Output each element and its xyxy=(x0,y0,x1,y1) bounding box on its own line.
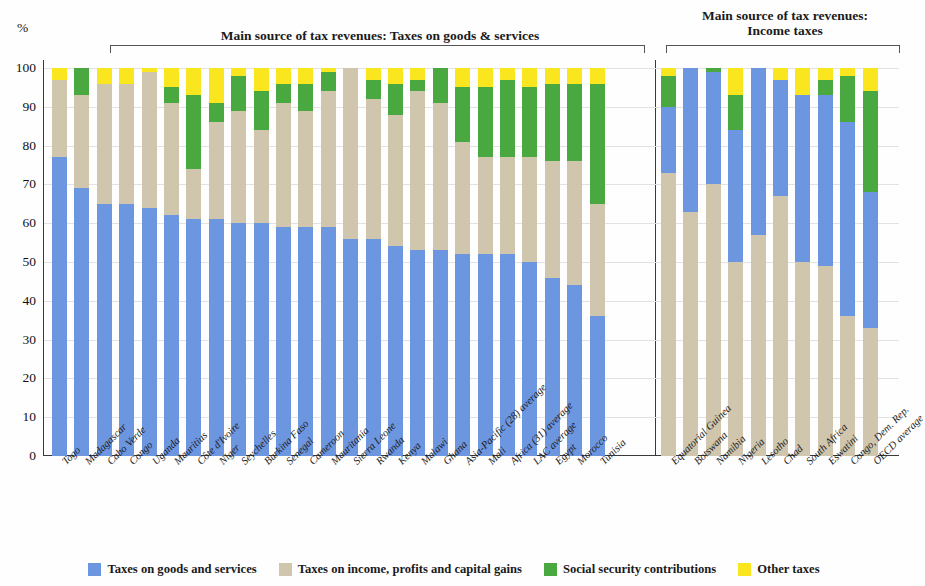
segment-income xyxy=(343,68,358,239)
legend-item[interactable]: Taxes on goods and services xyxy=(88,562,256,577)
bar-nigeria[interactable] xyxy=(728,68,743,456)
segment-social xyxy=(254,91,269,130)
segment-social xyxy=(840,76,855,123)
bar-mauritius[interactable] xyxy=(164,68,179,456)
bar-cameroon[interactable] xyxy=(298,68,313,456)
segment-other xyxy=(773,68,788,80)
segment-other xyxy=(661,68,676,76)
y-axis-tick-label: 10 xyxy=(2,409,36,425)
bar-seychelles[interactable] xyxy=(231,68,246,456)
segment-other xyxy=(455,68,470,87)
bar-cabo-verde[interactable] xyxy=(97,68,112,456)
bar-senegal[interactable] xyxy=(276,68,291,456)
bar-namibia[interactable] xyxy=(706,68,721,456)
segment-social xyxy=(276,84,291,103)
segment-income xyxy=(209,122,224,219)
segment-other xyxy=(795,68,810,95)
bar-eswatini[interactable] xyxy=(818,68,833,456)
bar-sierra-leone[interactable] xyxy=(343,68,358,456)
segment-income xyxy=(751,235,766,456)
segment-other xyxy=(186,68,201,95)
bar-lesotho[interactable] xyxy=(751,68,766,456)
y-axis-tick-label: 60 xyxy=(2,215,36,231)
segment-income xyxy=(410,91,425,250)
bar-south-africa[interactable] xyxy=(795,68,810,456)
bar-egypt[interactable] xyxy=(545,68,560,456)
segment-goods xyxy=(751,68,766,235)
segment-income xyxy=(74,95,89,188)
segment-income xyxy=(545,161,560,277)
segment-other xyxy=(276,68,291,84)
bar-niger[interactable] xyxy=(209,68,224,456)
bar-africa-31-average[interactable] xyxy=(500,68,515,456)
segment-goods xyxy=(661,107,676,173)
segment-social xyxy=(366,80,381,99)
bar-chad[interactable] xyxy=(773,68,788,456)
legend-item[interactable]: Social security contributions xyxy=(544,562,716,577)
bar-botswana[interactable] xyxy=(683,68,698,456)
segment-social xyxy=(545,84,560,162)
segment-income xyxy=(683,212,698,456)
segment-goods xyxy=(683,68,698,212)
bar-mauritania[interactable] xyxy=(321,68,336,456)
bar-morocco[interactable] xyxy=(567,68,582,456)
segment-income xyxy=(433,103,448,250)
y-axis-tick-label: 0 xyxy=(2,448,36,464)
segment-goods xyxy=(433,250,448,456)
segment-income xyxy=(728,262,743,456)
segment-income xyxy=(455,142,470,255)
bar-oecd-average[interactable] xyxy=(863,68,878,456)
bar-congo[interactable] xyxy=(119,68,134,456)
legend-item[interactable]: Taxes on income, profits and capital gai… xyxy=(279,562,522,577)
segment-goods xyxy=(142,208,157,456)
segment-other xyxy=(119,68,134,84)
bar-madagascar[interactable] xyxy=(74,68,89,456)
segment-social xyxy=(478,87,493,157)
segment-income xyxy=(773,196,788,456)
bar-asia-pacific-28-average[interactable] xyxy=(455,68,470,456)
bar-congo-dem-rep[interactable] xyxy=(840,68,855,456)
y-axis-unit-label: % xyxy=(17,20,28,36)
segment-goods xyxy=(455,254,470,456)
segment-other xyxy=(209,68,224,103)
legend-swatch-icon xyxy=(279,563,292,576)
bar-equatorial-guinea[interactable] xyxy=(661,68,676,456)
group-header-income-line1: Main source of tax revenues: xyxy=(660,8,910,23)
segment-income xyxy=(276,103,291,227)
segment-income xyxy=(567,161,582,285)
y-axis-tick-label: 90 xyxy=(2,99,36,115)
legend-item[interactable]: Other taxes xyxy=(738,562,819,577)
segment-goods xyxy=(186,219,201,456)
bar-burkina-faso[interactable] xyxy=(254,68,269,456)
group-header-goods: Main source of tax revenues: Taxes on go… xyxy=(100,28,660,43)
segment-income xyxy=(478,157,493,254)
segment-social xyxy=(74,68,89,95)
bar-rwanda[interactable] xyxy=(366,68,381,456)
bar-mali[interactable] xyxy=(478,68,493,456)
chart-legend: Taxes on goods and servicesTaxes on inco… xyxy=(0,556,908,582)
bar-togo[interactable] xyxy=(52,68,67,456)
segment-other xyxy=(500,68,515,80)
segment-other xyxy=(840,68,855,76)
segment-income xyxy=(500,157,515,254)
bar-malawi[interactable] xyxy=(410,68,425,456)
segment-social xyxy=(321,72,336,91)
segment-social xyxy=(522,87,537,157)
segment-other xyxy=(728,68,743,95)
segment-other xyxy=(522,68,537,87)
segment-goods xyxy=(276,227,291,456)
segment-goods xyxy=(773,80,788,196)
segment-goods xyxy=(52,157,67,456)
bar-kenya[interactable] xyxy=(388,68,403,456)
bar-c-te-d-ivoire[interactable] xyxy=(186,68,201,456)
bar-tunisia[interactable] xyxy=(590,68,605,456)
bar-uganda[interactable] xyxy=(142,68,157,456)
segment-social xyxy=(567,84,582,162)
segment-other xyxy=(818,68,833,80)
segment-income xyxy=(52,80,67,158)
bar-ghana[interactable] xyxy=(433,68,448,456)
segment-goods xyxy=(706,72,721,185)
segment-other xyxy=(298,68,313,84)
segment-social xyxy=(728,95,743,130)
segment-social xyxy=(186,95,201,169)
